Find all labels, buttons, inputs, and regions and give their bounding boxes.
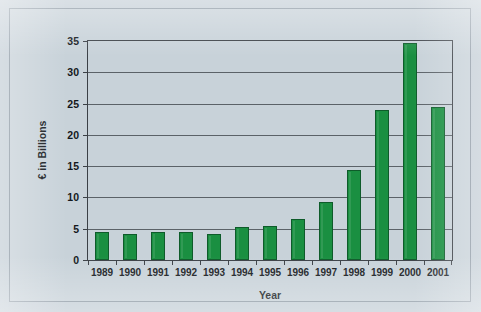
x-tick-mark [116, 260, 117, 265]
bar [263, 226, 277, 260]
x-tick-mark [424, 260, 425, 265]
bar [431, 107, 445, 260]
x-tick-mark [200, 260, 201, 265]
x-tick-label: 1992 [175, 268, 197, 278]
x-tick-label: 2000 [399, 268, 421, 278]
bar [347, 170, 361, 260]
x-tick-mark [396, 260, 397, 265]
plot-area: 05101520253035 1989199019911992199319941… [87, 40, 453, 261]
bar [151, 232, 165, 260]
gridline [88, 166, 452, 167]
x-tick-mark [144, 260, 145, 265]
x-tick-mark [340, 260, 341, 265]
y-tick-mark [83, 197, 88, 198]
x-tick-label: 1989 [91, 268, 113, 278]
gridline [88, 104, 452, 105]
x-tick-label: 1990 [119, 268, 141, 278]
gridline [88, 197, 452, 198]
y-tick-mark [83, 166, 88, 167]
bar [291, 219, 305, 260]
y-tick-mark [83, 135, 88, 136]
gridline [88, 72, 452, 73]
x-tick-label: 1996 [287, 268, 309, 278]
y-tick-label: 30 [67, 67, 79, 78]
bar [235, 227, 249, 260]
bar [95, 232, 109, 260]
x-tick-mark [368, 260, 369, 265]
y-tick-label: 35 [67, 36, 79, 47]
x-tick-mark [256, 260, 257, 265]
y-tick-mark [83, 72, 88, 73]
bar [319, 202, 333, 260]
y-tick-mark [83, 104, 88, 105]
x-tick-label: 1999 [371, 268, 393, 278]
x-tick-label: 2001 [427, 268, 449, 278]
x-tick-label: 1997 [315, 268, 337, 278]
x-tick-mark [228, 260, 229, 265]
y-tick-label: 10 [67, 192, 79, 203]
y-tick-label: 0 [73, 255, 79, 266]
x-tick-mark [451, 260, 452, 265]
x-tick-mark [88, 260, 89, 265]
x-tick-mark [284, 260, 285, 265]
y-tick-mark [83, 41, 88, 42]
x-tick-label: 1998 [343, 268, 365, 278]
bar [207, 234, 221, 260]
y-tick-label: 20 [67, 130, 79, 141]
x-tick-label: 1995 [259, 268, 281, 278]
bar [375, 110, 389, 260]
bar [123, 234, 137, 260]
x-tick-label: 1991 [147, 268, 169, 278]
bar [403, 43, 417, 260]
x-tick-mark [172, 260, 173, 265]
y-tick-label: 25 [67, 98, 79, 109]
bar [179, 232, 193, 260]
y-tick-label: 5 [73, 223, 79, 234]
y-tick-mark [83, 229, 88, 230]
y-axis-title: € in Billions [37, 121, 48, 180]
figure-frame: € in Billions 05101520253035 19891990199… [9, 8, 471, 302]
gridline [88, 135, 452, 136]
x-tick-label: 1994 [231, 268, 253, 278]
chart-figure: € in Billions 05101520253035 19891990199… [0, 0, 481, 312]
x-axis-title: Year [87, 290, 453, 301]
x-tick-mark [312, 260, 313, 265]
x-tick-label: 1993 [203, 268, 225, 278]
y-tick-label: 15 [67, 161, 79, 172]
